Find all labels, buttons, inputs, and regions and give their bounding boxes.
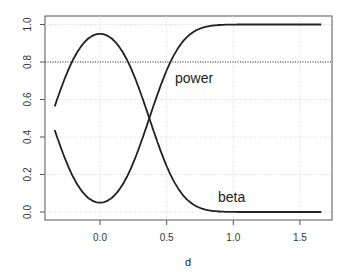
x-tick-label: 1.0 — [226, 232, 240, 243]
y-tick-label: 0.8 — [22, 55, 33, 69]
y-tick-label: 0.0 — [22, 205, 33, 219]
y-axis: 0.00.20.40.60.81.0 — [22, 17, 45, 219]
x-axis: 0.00.51.01.5 — [93, 220, 307, 243]
x-tick-label: 0.0 — [93, 232, 107, 243]
power-beta-chart: 0.00.51.01.5 0.00.20.40.60.81.0 d power … — [0, 0, 349, 279]
x-axis-title: d — [185, 256, 191, 268]
x-tick-label: 1.5 — [293, 232, 307, 243]
annotation-power: power — [175, 70, 213, 86]
annotation-beta: beta — [218, 189, 245, 205]
plot-area — [45, 16, 332, 220]
y-tick-label: 0.4 — [22, 130, 33, 144]
y-tick-label: 0.2 — [22, 167, 33, 181]
y-tick-label: 0.6 — [22, 92, 33, 106]
y-tick-label: 1.0 — [22, 17, 33, 31]
x-tick-label: 0.5 — [160, 232, 174, 243]
